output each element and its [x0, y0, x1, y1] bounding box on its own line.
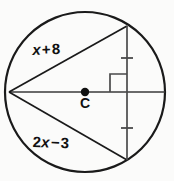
center-point-dot: [81, 88, 89, 96]
circle-geometry-figure: x+8 2x−3 C: [0, 0, 174, 181]
geometry-canvas: [0, 0, 174, 181]
